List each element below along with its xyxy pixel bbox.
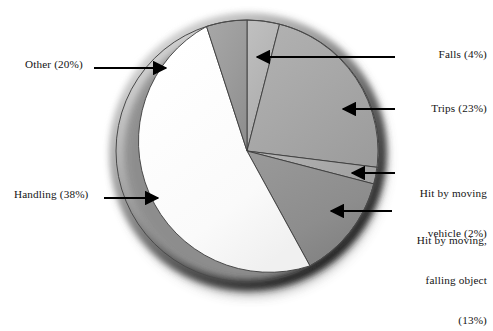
slice-label-hit-by-moving-vehicle-line1: Hit by moving [420,187,487,200]
slice-label-hit-by-moving-falling-object: Hit by moving, falling object (13%) [417,207,487,331]
slice-label-trips: Trips (23%) [431,102,487,115]
slice-label-falls: Falls (4%) [439,48,487,61]
slice-label-hit-by-moving-falling-object-line2: falling object [417,274,487,287]
slice-label-handling: Handling (38%) [14,188,89,201]
slice-label-hit-by-moving-falling-object-line1: Hit by moving, [417,234,487,247]
slice-label-hit-by-moving-falling-object-line3: (13%) [417,314,487,327]
slice-label-other: Other (20%) [25,58,83,71]
